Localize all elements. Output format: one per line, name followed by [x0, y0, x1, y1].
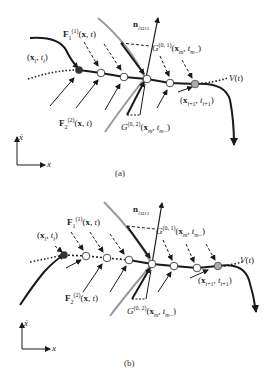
- g01-label: G(0, 1)(xm, tm−): [156, 225, 205, 238]
- force-2-label: F2(2)(x, t): [59, 117, 92, 130]
- start-node: [75, 66, 83, 74]
- force-1-label: F1(1)(x, t): [63, 28, 96, 41]
- boundary-label: V(t): [240, 256, 254, 265]
- outgoing-trajectory: [195, 84, 234, 145]
- incoming-trajectory: [20, 255, 64, 305]
- end-point-label: (xi+1, ti+1): [198, 276, 232, 287]
- start-point-label: (xi, ti): [37, 231, 58, 242]
- start-node: [60, 251, 68, 259]
- panel-b: F1(1)(x, t) (xi, ti) n∂Ω12 G(0, 1)(xm, t…: [0, 188, 267, 376]
- boundary-label: V(t): [229, 74, 243, 83]
- caption-b: (b): [124, 358, 135, 368]
- y-axis-label: ẋ: [24, 319, 28, 328]
- x-axis-label: x: [52, 344, 56, 353]
- normal-label: n∂Ω12: [133, 205, 149, 216]
- start-point-label: (xi, ti): [27, 53, 48, 64]
- caption-a: (a): [115, 168, 125, 178]
- panel-a: F1(1)(x, t) (xi, ti) n∂Ω12 G(0, 1)(xm, t…: [0, 0, 267, 188]
- g01-label: G(0, 1)(xm, tm−): [152, 42, 201, 55]
- end-node: [214, 262, 222, 270]
- g02-label: G(0, 2)(xm, tm−): [121, 121, 170, 134]
- dotted-boundary: [28, 70, 78, 79]
- force-2-label: F2(2)(x, t): [65, 292, 98, 305]
- end-node: [191, 80, 199, 88]
- normal-label: n∂Ω12: [133, 20, 149, 31]
- outgoing-trajectory: [218, 265, 256, 312]
- y-axis-label: ẋ: [19, 133, 23, 142]
- force-1-label: F1(1)(x, t): [67, 216, 100, 229]
- end-point-label: (xi+1, ti+1): [180, 96, 214, 107]
- x-axis-label: x: [47, 160, 51, 169]
- g02-label: G(0, 2)(xm, tm−): [127, 305, 176, 318]
